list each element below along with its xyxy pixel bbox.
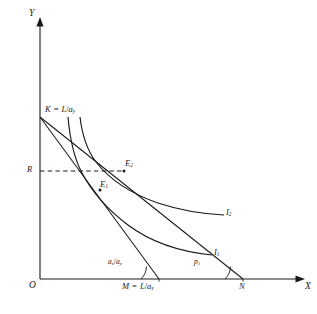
point-label-K-letter: K [45,104,51,114]
curve-label-I2: I2 [226,208,231,217]
point-label-K-denominator-subscript: y [73,108,75,114]
point-label-M-denominator-subscript: x [151,285,153,291]
slope-label-domestic-denominator-subscript: y [120,261,122,266]
point-label-R: R [27,165,32,174]
point-label-M: M=L/ax [122,282,154,291]
point-label-E1: E1 [100,180,108,189]
curve-label-I1: I1 [214,248,219,257]
point-label-M-letter: M [122,281,129,291]
economics-trade-diagram: Y X O K=L/ay M=L/ax N R E1 E2 I2 I1 ax/a… [0,0,317,314]
point-label-M-equals: = [132,281,137,291]
y-axis-arrowhead [36,17,43,27]
point-label-K: K=L/ay [45,105,75,114]
point-label-E1-subscript: 1 [105,183,108,189]
point-label-E2: E2 [125,159,133,168]
slope-label-world-price-subscript: 1 [198,261,200,266]
indifference-curves-group [68,117,224,255]
price-lines-group [40,117,243,279]
axes-group [36,17,305,283]
x-axis-arrowhead [296,275,306,282]
indifference-curve-I1 [68,117,212,255]
diagram-canvas [0,0,317,314]
origin-label: O [29,281,36,291]
y-axis-label: Y [29,9,34,19]
angle-arc-domestic-slope [141,267,147,280]
curve-label-I2-subscript: 2 [229,211,232,217]
point-label-N: N [239,282,245,291]
slope-label-world-price: p1 [194,258,200,267]
point-marker-E2 [123,170,126,173]
curve-label-I1-subscript: 1 [217,251,220,257]
point-label-K-equals: = [54,104,59,114]
x-axis-label: X [305,282,311,292]
slope-label-domestic: ax/ay [108,258,122,267]
point-label-E2-subscript: 2 [130,162,133,168]
